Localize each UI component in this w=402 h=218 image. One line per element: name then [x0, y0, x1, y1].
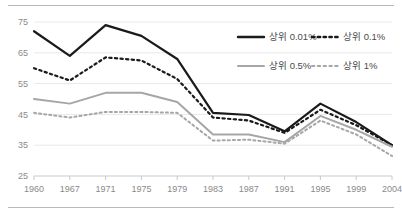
x-axis-tick-label: 1979	[167, 184, 187, 194]
x-axis-tick-label: 1967	[60, 184, 80, 194]
line-chart-plot: 2535455565751960196719711975197919831987…	[0, 0, 402, 218]
legend-label-2: 상위 0.5%	[269, 60, 312, 71]
x-axis-tick-label: 1999	[346, 184, 366, 194]
x-axis-tick-label: 2004	[382, 184, 402, 194]
x-axis-tick-label: 1987	[239, 184, 259, 194]
y-axis-tick-label: 75	[18, 17, 28, 27]
y-axis-tick-label: 65	[18, 48, 28, 58]
legend-label-3: 상위 1%	[343, 60, 378, 71]
x-axis-tick-label: 1995	[310, 184, 330, 194]
x-axis-tick-label: 1991	[275, 184, 295, 194]
legend-label-1: 상위 0.1%	[343, 31, 386, 42]
x-axis-tick-label: 1960	[24, 184, 44, 194]
x-axis-tick-label: 1971	[96, 184, 116, 194]
y-axis-tick-label: 55	[18, 79, 28, 89]
legend-label-0: 상위 0.01%	[269, 31, 317, 42]
y-axis-tick-label: 35	[18, 140, 28, 150]
x-axis-tick-label: 1975	[131, 184, 151, 194]
x-axis-tick-label: 1983	[203, 184, 223, 194]
y-axis-tick-label: 45	[18, 110, 28, 120]
chart-container: 2535455565751960196719711975197919831987…	[0, 0, 402, 218]
y-axis-tick-label: 25	[18, 171, 28, 181]
series-line-2	[34, 93, 392, 147]
series-line-1	[34, 57, 392, 145]
